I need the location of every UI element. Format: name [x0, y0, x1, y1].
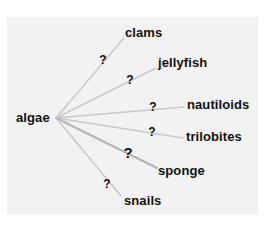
- node-snails: snails: [124, 194, 161, 208]
- edge-algae-snails: [56, 118, 121, 196]
- edge-algae-clams: [56, 38, 124, 118]
- node-algae: algae: [16, 111, 50, 125]
- node-clams: clams: [125, 26, 162, 40]
- question-mark-nautiloids: ?: [149, 101, 156, 113]
- question-mark-clams: ?: [99, 54, 106, 66]
- question-mark-jellyfish: ?: [126, 74, 133, 86]
- node-trilobites: trilobites: [186, 130, 242, 144]
- node-sponge: sponge: [158, 164, 205, 178]
- question-mark-sponge: ?: [123, 147, 132, 159]
- node-nautiloids: nautiloids: [187, 98, 249, 112]
- question-mark-snails: ?: [103, 178, 110, 190]
- node-jellyfish: jellyfish: [158, 56, 207, 70]
- question-mark-trilobites: ?: [148, 126, 155, 138]
